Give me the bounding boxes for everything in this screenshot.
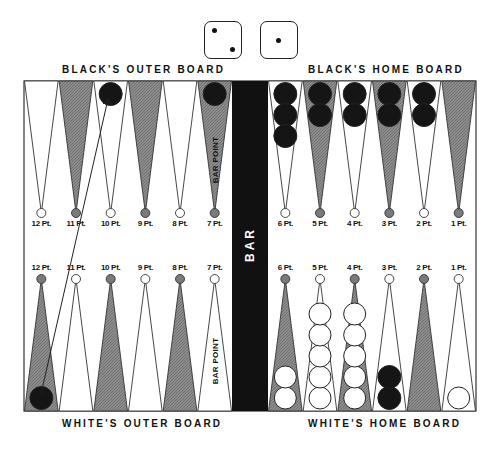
point-label: 4 Pt.	[347, 219, 362, 228]
white-checker[interactable]	[344, 324, 366, 346]
point-label: 3 Pt.	[382, 263, 397, 272]
point-label: 2 Pt.	[416, 263, 431, 272]
black-checker[interactable]	[413, 83, 436, 106]
point-label: 7 Pt.	[207, 219, 222, 228]
white-checker[interactable]	[309, 324, 331, 346]
point-tip-marker	[141, 275, 150, 284]
point-tip-marker	[210, 275, 219, 284]
point-tip-marker	[316, 209, 325, 218]
point-label: 6 Pt.	[278, 219, 293, 228]
point-tip-marker	[420, 209, 429, 218]
point-label: 11 Pt.	[66, 219, 85, 228]
black-checker[interactable]	[203, 83, 226, 106]
point-tip-marker	[176, 209, 185, 218]
point-tip-marker	[385, 209, 394, 218]
black-checker[interactable]	[343, 83, 366, 106]
black-checker[interactable]	[378, 83, 401, 106]
point-tip-marker	[420, 275, 429, 284]
bar-label: B A R	[243, 230, 257, 262]
point-label: 9 Pt.	[138, 219, 153, 228]
point-tip-marker	[454, 209, 463, 218]
point-tip-marker	[106, 209, 115, 218]
point-tip-marker	[454, 275, 463, 284]
point-label: 12 Pt.	[32, 263, 52, 272]
white-checker[interactable]	[309, 303, 331, 325]
black-checker[interactable]	[378, 387, 401, 410]
point-tip-marker	[316, 275, 325, 284]
point-label: 8 Pt.	[172, 219, 187, 228]
point-label: 1 Pt.	[451, 263, 466, 272]
point-label: 6 Pt.	[278, 263, 293, 272]
point-label: 5 Pt.	[312, 263, 327, 272]
black-checker[interactable]	[309, 83, 332, 106]
point-tip-marker	[350, 275, 359, 284]
point-tip-marker	[72, 209, 81, 218]
black-checker[interactable]	[274, 104, 297, 127]
black-checker[interactable]	[343, 104, 366, 127]
white-checker[interactable]	[309, 387, 331, 409]
black-checker[interactable]	[378, 366, 401, 389]
point-label: 7 Pt.	[207, 263, 222, 272]
point-label: 9 Pt.	[138, 263, 153, 272]
point-label: 12 Pt.	[32, 219, 52, 228]
black-checker[interactable]	[30, 387, 53, 410]
white-checker[interactable]	[274, 387, 296, 409]
point-label: 4 Pt.	[347, 263, 362, 272]
backgammon-board: 12 Pt.11 Pt.10 Pt.9 Pt.8 Pt.7 Pt.6 Pt.5 …	[0, 0, 497, 450]
point-label: 3 Pt.	[382, 219, 397, 228]
point-tip-marker	[176, 275, 185, 284]
point-tip-marker	[37, 209, 46, 218]
white-checker[interactable]	[344, 366, 366, 388]
point-tip-marker	[106, 275, 115, 284]
point-label: 8 Pt.	[172, 263, 187, 272]
white-checker[interactable]	[344, 345, 366, 367]
point-tip-marker	[141, 209, 150, 218]
point-tip-marker	[37, 275, 46, 284]
black-checker[interactable]	[274, 83, 297, 106]
white-checker[interactable]	[274, 366, 296, 388]
point-label: 10 Pt.	[101, 263, 121, 272]
point-tip-marker	[210, 209, 219, 218]
white-checker[interactable]	[309, 366, 331, 388]
black-checker[interactable]	[274, 125, 297, 148]
point-label: 2 Pt.	[416, 219, 431, 228]
black-checker[interactable]	[413, 104, 436, 127]
point-tip-marker	[385, 275, 394, 284]
white-checker[interactable]	[344, 303, 366, 325]
black-checker[interactable]	[309, 104, 332, 127]
point-label: 5 Pt.	[312, 219, 327, 228]
bar-point-label-bottom: BAR POINT	[211, 338, 220, 385]
black-checker[interactable]	[99, 83, 122, 106]
point-label: 1 Pt.	[451, 219, 466, 228]
white-checker[interactable]	[448, 387, 470, 409]
white-checker[interactable]	[309, 345, 331, 367]
bar-point-label-top: BAR POINT	[211, 137, 220, 184]
point-label: 10 Pt.	[101, 219, 121, 228]
point-tip-marker	[281, 275, 290, 284]
white-checker[interactable]	[344, 387, 366, 409]
black-checker[interactable]	[378, 104, 401, 127]
point-tip-marker	[350, 209, 359, 218]
point-tip-marker	[72, 275, 81, 284]
point-tip-marker	[281, 209, 290, 218]
